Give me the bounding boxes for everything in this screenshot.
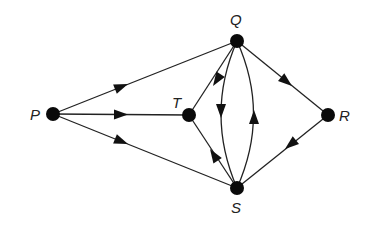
edge-q-t (189, 41, 237, 115)
edge-r-s (237, 115, 328, 188)
edge-s-q (237, 41, 254, 188)
label-t: T (172, 94, 183, 111)
arrow-p-t-icon (114, 109, 128, 119)
label-r: R (339, 107, 350, 124)
edge-p-s (53, 114, 237, 188)
arrow-s-q-icon (249, 110, 259, 124)
edge-p-q (53, 41, 237, 114)
arrow-p-s-icon (113, 134, 130, 149)
node-q (230, 34, 244, 48)
label-s: S (231, 199, 241, 216)
label-p: P (30, 106, 40, 123)
label-q: Q (230, 11, 242, 28)
node-p (46, 107, 60, 121)
node-t (182, 108, 196, 122)
arrow-q-s-icon (216, 104, 226, 118)
node-r (321, 108, 335, 122)
node-s (230, 181, 244, 195)
directed-graph: P T Q R S (0, 0, 370, 232)
arrow-p-q-icon (113, 79, 130, 93)
